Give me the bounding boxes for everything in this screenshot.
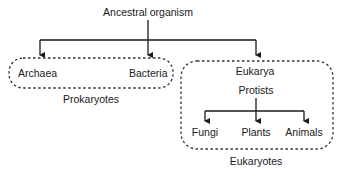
protists-label: Protists <box>238 84 273 96</box>
prokaryotes-group-label: Prokaryotes <box>63 93 119 105</box>
root-label: Ancestral organism <box>103 6 193 18</box>
eukaryotes-group-label: Eukaryotes <box>230 155 283 167</box>
eukarya-label: Eukarya <box>236 65 275 77</box>
plants-label: Plants <box>241 126 270 138</box>
bacteria-label: Bacteria <box>129 67 168 79</box>
diagram-canvas <box>0 0 345 176</box>
archaea-label: Archaea <box>18 67 57 79</box>
animals-label: Animals <box>285 126 322 138</box>
fungi-label: Fungi <box>192 126 218 138</box>
